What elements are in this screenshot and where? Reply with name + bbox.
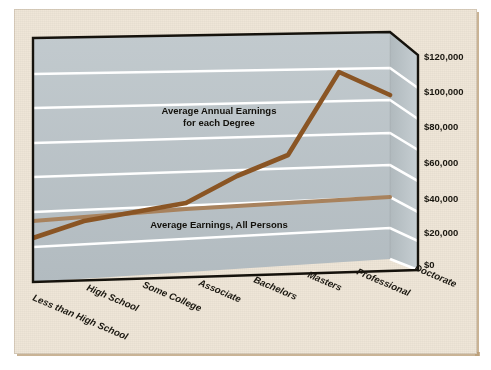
all-persons-series-annotation: Average Earnings, All Persons xyxy=(150,219,288,230)
x-category-label-associate: Associate xyxy=(196,276,243,304)
x-category-label-bachelors: Bachelors xyxy=(252,274,299,302)
y-tick-label-80000: $80,000 xyxy=(424,121,458,132)
y-tick-label-100000: $100,000 xyxy=(424,86,464,97)
all-persons-series-annotation-line1: Average Earnings, All Persons xyxy=(150,219,288,230)
y-tick-label-40000: $40,000 xyxy=(424,193,458,204)
degree-series-annotation-line1: Average Annual Earnings xyxy=(162,105,277,116)
y-tick-label-120000: $120,000 xyxy=(424,51,464,62)
y-axis-tick-labels: $120,000 $100,000 $80,000 $60,000 $40,00… xyxy=(424,51,464,270)
y-tick-label-20000: $20,000 xyxy=(424,227,458,238)
x-category-label-doctorate: Doctorate xyxy=(413,262,459,290)
chart-page: $120,000 $100,000 $80,000 $60,000 $40,00… xyxy=(0,0,491,370)
x-category-label-high-school: High School xyxy=(85,282,141,314)
y-tick-label-60000: $60,000 xyxy=(424,157,458,168)
x-category-label-some-college: Some College xyxy=(141,279,204,314)
earnings-by-degree-chart: $120,000 $100,000 $80,000 $60,000 $40,00… xyxy=(0,0,491,370)
degree-series-annotation-line2: for each Degree xyxy=(183,117,255,128)
